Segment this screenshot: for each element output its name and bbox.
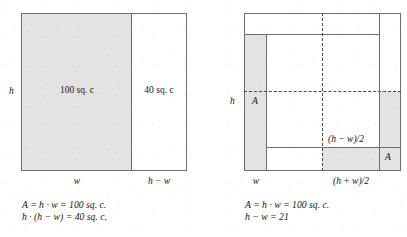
- right-bottom-width-label: w: [253, 176, 259, 187]
- left-bottom-width-label: w: [74, 176, 80, 187]
- left-shaded-region-label: 100 sq. c: [60, 85, 94, 96]
- right-horizontal-dashed-line: [244, 91, 401, 92]
- left-formula-line-2: h · (h − w) = 40 sq. c.: [22, 211, 107, 224]
- right-vertical-dashed-line: [322, 13, 323, 171]
- right-bottom-halfsum-label: (h + w)/2: [333, 176, 369, 187]
- right-corner-area-label: A: [385, 152, 391, 163]
- right-inner-area-label: A: [252, 96, 258, 107]
- figure-root: 100 sq. c 40 sq. c h w h − w A = h · w =…: [0, 0, 407, 237]
- right-formula-line-1: A = h · w = 100 sq. c.: [245, 199, 329, 212]
- right-height-label: h: [230, 96, 235, 107]
- right-left-strip-rule: [266, 34, 267, 171]
- right-half-difference-label: (h − w)/2: [328, 134, 364, 145]
- left-white-region-label: 40 sq. c: [144, 85, 173, 96]
- right-lower-shaded-band: [322, 147, 379, 170]
- right-top-band-rule: [244, 34, 380, 35]
- right-bottom-band-rule: [266, 147, 401, 148]
- right-formula-line-2: h − w = 21: [245, 211, 289, 224]
- left-bottom-difference-label: h − w: [148, 176, 170, 187]
- left-height-label: h: [9, 86, 14, 97]
- left-formula-line-1: A = h · w = 100 sq. c.: [22, 199, 106, 212]
